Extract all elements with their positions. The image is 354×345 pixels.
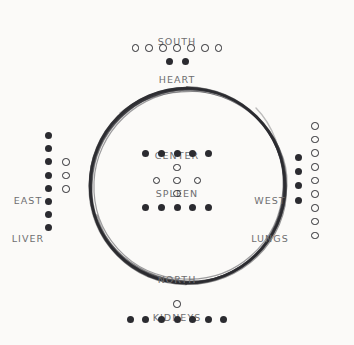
dot-row-north-filled bbox=[0, 316, 354, 323]
dot-row-center-bottom bbox=[142, 204, 211, 211]
dot-group-north bbox=[0, 300, 354, 323]
label-north-direction: NORTH bbox=[0, 274, 354, 287]
center-hollow-dot bbox=[173, 190, 181, 198]
dot-row-center-top bbox=[142, 150, 211, 157]
west-hollow-dot bbox=[311, 218, 319, 226]
west-hollow-dot bbox=[311, 190, 319, 198]
diagram-canvas: SOUTH HEART NORTH KIDNEYS CENTER SPLEEN … bbox=[0, 0, 354, 345]
center-filled-dot bbox=[142, 204, 149, 211]
south-filled-dot bbox=[182, 58, 189, 65]
dot-group-west bbox=[295, 122, 319, 239]
north-filled-dot bbox=[220, 316, 227, 323]
west-filled-dot bbox=[295, 197, 302, 204]
center-hollow-dot bbox=[173, 164, 181, 172]
west-hollow-dot bbox=[311, 136, 319, 144]
dot-row-south-hollow bbox=[0, 44, 354, 52]
center-filled-dot bbox=[205, 204, 212, 211]
center-hollow-dot bbox=[194, 177, 202, 185]
dot-row-center-diamond-2 bbox=[153, 177, 202, 185]
center-filled-dot bbox=[174, 150, 181, 157]
label-east-organ: LIVER bbox=[6, 233, 50, 246]
west-hollow-dot bbox=[311, 204, 319, 212]
label-west-direction: WEST bbox=[244, 195, 296, 208]
center-filled-dot bbox=[142, 150, 149, 157]
south-hollow-dot bbox=[159, 44, 167, 52]
center-filled-dot bbox=[205, 150, 212, 157]
east-filled-dot bbox=[45, 198, 52, 205]
label-east-liver: EAST LIVER bbox=[6, 170, 50, 270]
east-filled-dot bbox=[45, 211, 52, 218]
west-hollow-dot bbox=[311, 232, 319, 240]
west-hollow-dot bbox=[311, 177, 319, 185]
south-hollow-dot bbox=[145, 44, 153, 52]
center-filled-dot bbox=[158, 150, 165, 157]
dot-group-south bbox=[0, 44, 354, 65]
south-hollow-dot bbox=[201, 44, 209, 52]
east-filled-dot bbox=[45, 132, 52, 139]
center-filled-dot bbox=[189, 204, 196, 211]
south-hollow-dot bbox=[132, 44, 140, 52]
dot-row-north-hollow bbox=[0, 300, 354, 308]
center-filled-dot bbox=[158, 204, 165, 211]
center-filled-dot bbox=[174, 204, 181, 211]
north-filled-dot bbox=[189, 316, 196, 323]
south-hollow-dot bbox=[173, 44, 181, 52]
east-filled-dot bbox=[45, 185, 52, 192]
center-filled-dot bbox=[189, 150, 196, 157]
north-filled-dot bbox=[174, 316, 181, 323]
west-hollow-dot bbox=[311, 163, 319, 171]
north-filled-dot bbox=[158, 316, 165, 323]
north-hollow-dot bbox=[173, 300, 181, 308]
dot-row-south-filled bbox=[0, 58, 354, 65]
east-hollow-dot bbox=[62, 158, 70, 166]
west-hollow-dot bbox=[311, 122, 319, 130]
dot-row-center-diamond-1 bbox=[173, 164, 181, 172]
east-filled-dot bbox=[45, 158, 52, 165]
east-hollow-dot bbox=[62, 172, 70, 180]
dot-column-west-filled bbox=[295, 122, 302, 204]
south-hollow-dot bbox=[187, 44, 195, 52]
west-filled-dot bbox=[295, 154, 302, 161]
label-west-organ: LUNGS bbox=[244, 233, 296, 246]
label-east-direction: EAST bbox=[6, 195, 50, 208]
west-hollow-dot bbox=[311, 149, 319, 157]
dot-group-east bbox=[45, 132, 70, 231]
east-filled-dot bbox=[45, 224, 52, 231]
dot-column-west-hollow bbox=[311, 122, 319, 239]
west-filled-dot bbox=[295, 182, 302, 189]
dot-column-east-hollow bbox=[62, 132, 70, 193]
label-north-kidneys: NORTH KIDNEYS bbox=[0, 249, 354, 345]
east-hollow-dot bbox=[62, 185, 70, 193]
east-filled-dot bbox=[45, 172, 52, 179]
west-filled-dot bbox=[295, 168, 302, 175]
dot-row-center-diamond-3 bbox=[173, 190, 181, 198]
label-west-lungs: WEST LUNGS bbox=[244, 170, 296, 270]
north-filled-dot bbox=[142, 316, 149, 323]
east-filled-dot bbox=[45, 145, 52, 152]
dot-column-east-filled bbox=[45, 132, 52, 231]
north-filled-dot bbox=[127, 316, 134, 323]
center-hollow-dot bbox=[173, 177, 181, 185]
north-filled-dot bbox=[205, 316, 212, 323]
south-filled-dot bbox=[166, 58, 173, 65]
center-hollow-dot bbox=[153, 177, 161, 185]
south-hollow-dot bbox=[215, 44, 223, 52]
label-south-organ: HEART bbox=[0, 74, 354, 87]
